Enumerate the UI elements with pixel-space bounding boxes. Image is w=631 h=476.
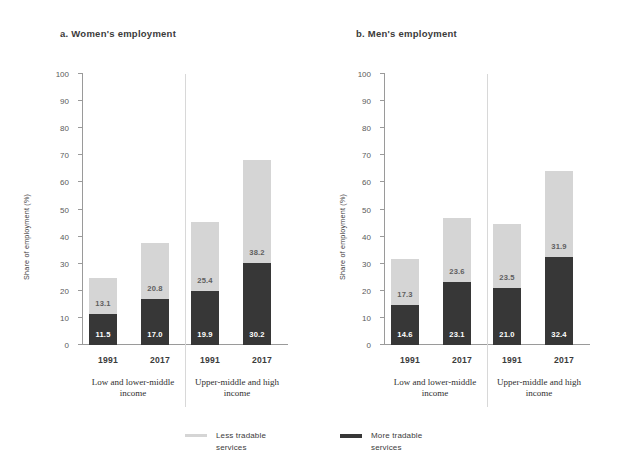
legend-item-more-tradable: More tradable services <box>340 430 451 453</box>
bar-value-less-tradable: 23.5 <box>493 273 521 282</box>
bar-segment-less-tradable: 20.8 <box>141 243 169 299</box>
bar-value-more-tradable: 32.4 <box>545 330 573 339</box>
y-tick-label-30: 30 <box>60 259 69 268</box>
panel-men: b. Men's employment Share of employment … <box>316 0 631 420</box>
bar-segment-more-tradable: 23.1 <box>443 282 471 345</box>
bar-segment-less-tradable: 13.1 <box>89 278 117 314</box>
x-tick-label-1991-high-a: 1991 <box>190 355 230 365</box>
x-tick-label-1991-low-a: 1991 <box>88 355 128 365</box>
group-separator-b <box>487 74 488 407</box>
bar-1991-low: 13.111.5 <box>89 278 117 345</box>
group-label-high-b: Upper-middle and high income <box>487 377 591 399</box>
bar-segment-less-tradable: 38.2 <box>243 160 271 264</box>
bar-value-less-tradable: 23.6 <box>443 267 471 276</box>
bar-value-more-tradable: 14.6 <box>391 330 419 339</box>
y-tick-label-20: 20 <box>362 286 371 295</box>
y-tick-label-100: 100 <box>358 70 371 79</box>
panel-women: a. Women's employment Share of employmen… <box>0 0 316 420</box>
bar-segment-more-tradable: 14.6 <box>391 305 419 345</box>
bar-2017-low: 23.623.1 <box>443 218 471 345</box>
bar-value-less-tradable: 25.4 <box>191 276 219 285</box>
y-tick-label-40: 40 <box>60 232 69 241</box>
legend-label-more-tradable: More tradable services <box>371 430 451 453</box>
y-tick-label-90: 90 <box>362 97 371 106</box>
y-tick-label-50: 50 <box>60 205 69 214</box>
bar-segment-more-tradable: 30.2 <box>243 263 271 345</box>
x-tick-label-2017-high-b: 2017 <box>544 355 584 365</box>
y-tick-label-0: 0 <box>65 341 69 350</box>
bar-value-less-tradable: 17.3 <box>391 290 419 299</box>
bar-segment-less-tradable: 17.3 <box>391 259 419 306</box>
bar-value-more-tradable: 30.2 <box>243 330 271 339</box>
panel-b-title: b. Men's employment <box>356 28 457 39</box>
x-tick-label-1991-high-b: 1991 <box>492 355 532 365</box>
legend: Less tradable services More tradable ser… <box>0 430 631 470</box>
y-tick-label-90: 90 <box>60 97 69 106</box>
bar-segment-more-tradable: 32.4 <box>545 257 573 345</box>
bar-segment-less-tradable: 25.4 <box>191 222 219 291</box>
y-tick-label-80: 80 <box>60 124 69 133</box>
bar-value-more-tradable: 23.1 <box>443 330 471 339</box>
y-axis-label-b: Share of employment (%) <box>338 266 347 280</box>
bar-value-more-tradable: 17.0 <box>141 330 169 339</box>
x-axis-a: 1991 2017 1991 2017 Low and lower-middle… <box>82 347 288 419</box>
bar-2017-low: 20.817.0 <box>141 243 169 345</box>
y-tick-label-20: 20 <box>60 286 69 295</box>
bar-2017-high: 38.230.2 <box>243 160 271 345</box>
group-label-high-a: Upper-middle and high income <box>185 377 289 399</box>
bar-1991-high: 25.419.9 <box>191 222 219 345</box>
bar-segment-more-tradable: 19.9 <box>191 291 219 345</box>
figure-root: a. Women's employment Share of employmen… <box>0 0 631 476</box>
x-tick-label-2017-low-b: 2017 <box>442 355 482 365</box>
y-tick-label-100: 100 <box>56 70 69 79</box>
panel-a-title: a. Women's employment <box>60 28 176 39</box>
legend-item-less-tradable: Less tradable services <box>185 430 296 453</box>
bar-segment-less-tradable: 23.6 <box>443 218 471 282</box>
y-tick-label-10: 10 <box>362 313 371 322</box>
legend-swatch-more-tradable-icon <box>340 434 362 438</box>
bar-value-less-tradable: 13.1 <box>89 299 117 308</box>
bar-value-more-tradable: 21.0 <box>493 330 521 339</box>
y-tick-label-60: 60 <box>362 178 371 187</box>
legend-label-less-tradable: Less tradable services <box>216 430 296 453</box>
y-tick-label-60: 60 <box>60 178 69 187</box>
group-label-low-a: Low and lower-middle income <box>81 377 185 399</box>
bar-segment-more-tradable: 17.0 <box>141 299 169 345</box>
y-tick-label-0: 0 <box>367 341 371 350</box>
y-tick-label-30: 30 <box>362 259 371 268</box>
group-separator-a <box>185 74 186 407</box>
bar-segment-less-tradable: 23.5 <box>493 224 521 288</box>
bar-value-less-tradable: 38.2 <box>243 248 271 257</box>
bar-value-less-tradable: 20.8 <box>141 284 169 293</box>
x-axis-b: 1991 2017 1991 2017 Low and lower-middle… <box>384 347 590 419</box>
bar-1991-high: 23.521.0 <box>493 224 521 345</box>
y-tick-label-80: 80 <box>362 124 371 133</box>
x-tick-label-2017-high-a: 2017 <box>242 355 282 365</box>
bar-value-less-tradable: 31.9 <box>545 242 573 251</box>
x-tick-label-2017-low-a: 2017 <box>140 355 180 365</box>
legend-swatch-less-tradable-icon <box>185 434 207 437</box>
y-tick-label-70: 70 <box>362 151 371 160</box>
bar-2017-high: 31.932.4 <box>545 171 573 345</box>
bar-value-more-tradable: 19.9 <box>191 330 219 339</box>
bar-segment-more-tradable: 11.5 <box>89 314 117 345</box>
bar-segment-less-tradable: 31.9 <box>545 171 573 257</box>
bar-1991-low: 17.314.6 <box>391 259 419 345</box>
y-tick-label-70: 70 <box>60 151 69 160</box>
x-tick-label-1991-low-b: 1991 <box>390 355 430 365</box>
group-label-low-b: Low and lower-middle income <box>383 377 487 399</box>
y-tick-label-10: 10 <box>60 313 69 322</box>
bar-value-more-tradable: 11.5 <box>89 330 117 339</box>
y-axis-label-a: Share of employment (%) <box>22 266 31 280</box>
y-tick-label-40: 40 <box>362 232 371 241</box>
y-tick-label-50: 50 <box>362 205 371 214</box>
bar-segment-more-tradable: 21.0 <box>493 288 521 345</box>
